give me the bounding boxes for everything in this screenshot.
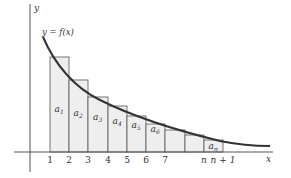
tick-label-9: n + 1 — [211, 155, 236, 165]
curve-label: y = f(x) — [41, 27, 74, 37]
rectangles-group — [50, 57, 223, 152]
rectangle-8 — [185, 135, 204, 152]
rectangle-4 — [108, 106, 127, 152]
tick-label-8: n — [201, 155, 207, 165]
series-sum-diagram: y x y = f(x) 1234567nn + 1 a1a2a3a4a5a6a… — [0, 0, 291, 178]
tick-label-3: 3 — [85, 155, 91, 165]
rectangle-7 — [165, 130, 185, 152]
tick-label-5: 5 — [124, 155, 130, 165]
tick-label-2: 2 — [66, 155, 72, 165]
tick-label-6: 6 — [143, 155, 149, 165]
x-axis-label: x — [266, 154, 271, 164]
tick-label-4: 4 — [105, 155, 111, 165]
tick-labels: 1234567nn + 1 — [47, 155, 235, 165]
rectangle-3 — [88, 97, 108, 152]
tick-label-7: 7 — [162, 155, 168, 165]
tick-label-1: 1 — [47, 155, 53, 165]
y-axis-label: y — [33, 3, 40, 13]
